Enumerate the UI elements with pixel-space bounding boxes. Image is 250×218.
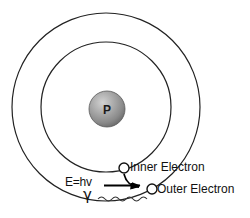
inner-electron-label: Inner Electron (130, 161, 205, 173)
diagram-canvas: P Inner Electron Outer Electron E=hv γ (0, 0, 250, 218)
gamma-photon-symbol: γ (83, 188, 92, 203)
outer-electron (147, 184, 157, 194)
outer-electron-label: Outer Electron (157, 183, 234, 195)
nucleus-label: P (103, 103, 111, 117)
inner-electron (119, 163, 129, 173)
